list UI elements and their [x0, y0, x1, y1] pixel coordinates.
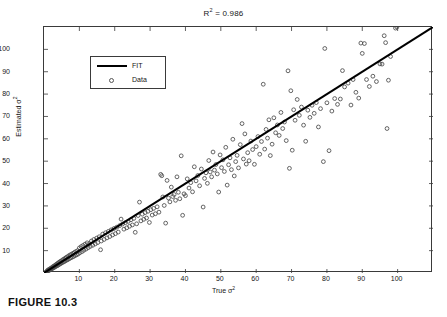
y-tick-label: 60 — [2, 134, 10, 141]
legend-circle-icon — [95, 73, 129, 87]
y-tick-label: 10 — [2, 246, 10, 253]
x-tick-label: 70 — [287, 275, 295, 282]
chart-title-value: = 0.986 — [213, 9, 244, 18]
y-tick-label: 30 — [2, 201, 10, 208]
x-axis-label: True σ2 — [0, 285, 447, 294]
chart-legend: FIT Data — [90, 56, 166, 89]
x-tick-label: 10 — [74, 275, 82, 282]
legend-label-fit: FIT — [132, 62, 143, 69]
x-tick-label: 100 — [391, 275, 403, 282]
y-axis-label: Estimated σ2 — [12, 57, 21, 177]
scatter-chart: R2 = 0.986 FIT Data 10203040506070809010… — [0, 0, 447, 292]
plot-frame: FIT Data — [43, 26, 432, 272]
y-tick-label: 100 — [0, 45, 10, 52]
legend-item-data: Data — [91, 73, 167, 87]
x-axis-label-base: True σ — [212, 287, 232, 294]
chart-title: R2 = 0.986 — [0, 7, 447, 18]
x-tick-label: 40 — [181, 275, 189, 282]
x-tick-label: 30 — [145, 275, 153, 282]
figure-caption: FIGURE 10.3 — [8, 296, 77, 308]
y-tick-label: 40 — [2, 179, 10, 186]
figure-container: R2 = 0.986 FIT Data 10203040506070809010… — [0, 0, 447, 317]
y-tick-label: 50 — [2, 157, 10, 164]
y-tick-label: 80 — [2, 90, 10, 97]
x-axis-label-superscript: 2 — [232, 285, 235, 291]
x-tick-label: 20 — [110, 275, 118, 282]
y-tick-label: 90 — [2, 67, 10, 74]
x-tick-label: 50 — [216, 275, 224, 282]
y-axis-label-base: Estimated σ — [15, 99, 22, 136]
y-tick-label: 70 — [2, 112, 10, 119]
y-axis-label-superscript: 2 — [12, 97, 18, 100]
legend-item-fit: FIT — [91, 59, 167, 73]
legend-label-data: Data — [132, 76, 147, 83]
x-tick-label: 60 — [251, 275, 259, 282]
x-tick-label: 90 — [357, 275, 365, 282]
x-tick-label: 80 — [322, 275, 330, 282]
legend-line-icon — [95, 59, 129, 73]
y-tick-label: 20 — [2, 224, 10, 231]
